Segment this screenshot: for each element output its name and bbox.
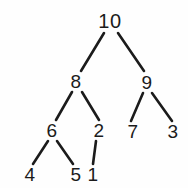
tree-diagram-canvas: 10896273451: [0, 0, 188, 188]
tree-node-1: 1: [88, 165, 99, 184]
tree-edge: [152, 93, 172, 121]
tree-edge: [81, 33, 104, 71]
tree-node-3: 3: [168, 122, 179, 141]
tree-node-5: 5: [71, 165, 82, 184]
tree-edge: [131, 93, 143, 121]
tree-node-4: 4: [25, 165, 36, 184]
tree-node-7: 7: [128, 122, 139, 141]
tree-edge-layer: [0, 0, 188, 188]
tree-edge: [56, 92, 72, 120]
tree-node-10: 10: [98, 11, 121, 31]
tree-node-9: 9: [142, 73, 153, 92]
tree-edge: [82, 92, 99, 120]
tree-node-8: 8: [71, 72, 82, 91]
tree-edge: [118, 33, 144, 71]
tree-edge: [93, 141, 96, 164]
tree-node-2: 2: [94, 121, 105, 140]
tree-node-6: 6: [47, 121, 58, 140]
tree-edge: [57, 141, 73, 164]
tree-edge: [33, 141, 48, 164]
